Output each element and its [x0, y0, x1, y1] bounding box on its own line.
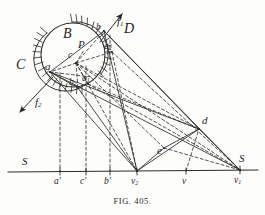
label-f1: f1	[117, 16, 123, 28]
label-a2: a2	[104, 42, 112, 52]
construction-lines-solid	[50, 31, 240, 171]
label-b2: b2	[69, 78, 77, 88]
figure-405: B C D P a b c a1 a2 b2 f1 f2 d e S S a′ …	[0, 0, 265, 215]
label-e: e	[157, 145, 162, 156]
label-S-right: S	[239, 153, 245, 164]
label-v: v	[182, 177, 186, 187]
figure-caption: FIG. 405.	[0, 196, 265, 206]
label-a-prime: a′	[54, 177, 61, 187]
label-d: d	[202, 115, 208, 126]
label-D: D	[124, 22, 134, 36]
label-v1: v1	[234, 176, 241, 186]
label-a1: a1	[82, 74, 90, 84]
label-v2: v2	[131, 177, 138, 187]
construction-lines-dashed	[50, 31, 240, 171]
label-f2: f2	[35, 97, 41, 109]
label-c-prime: c′	[80, 177, 86, 187]
label-C: C	[16, 58, 25, 72]
label-b-prime: b′	[104, 177, 111, 187]
label-S-left: S	[22, 156, 28, 167]
label-c: c	[68, 51, 72, 61]
label-B: B	[63, 27, 72, 41]
label-a: a	[45, 61, 51, 72]
label-b: b	[96, 23, 101, 33]
label-P: P	[78, 39, 85, 50]
base-line-SS	[8, 170, 258, 172]
